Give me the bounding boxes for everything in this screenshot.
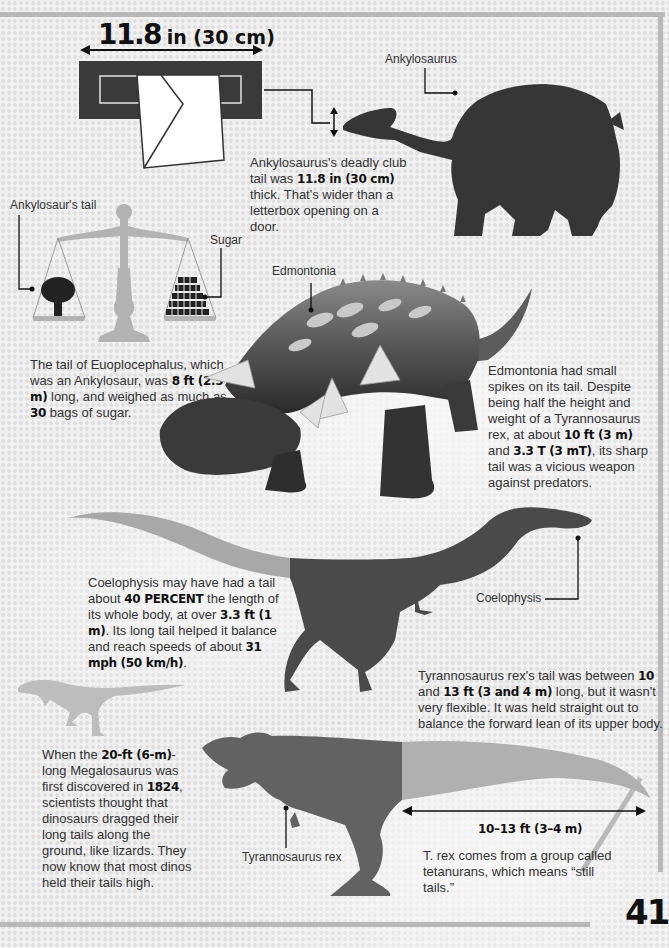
tetanurans-caption: T. rex comes from a group called tetanur… <box>423 848 623 896</box>
trex-label: Tyrannosaurus rex <box>242 850 341 864</box>
trex-silhouette <box>0 0 669 948</box>
tail-length-arrow-icon <box>402 806 646 816</box>
trex-tail-measurement: 10–13 ft (3–4 m) <box>478 822 582 836</box>
page-number: 41 <box>625 892 668 932</box>
